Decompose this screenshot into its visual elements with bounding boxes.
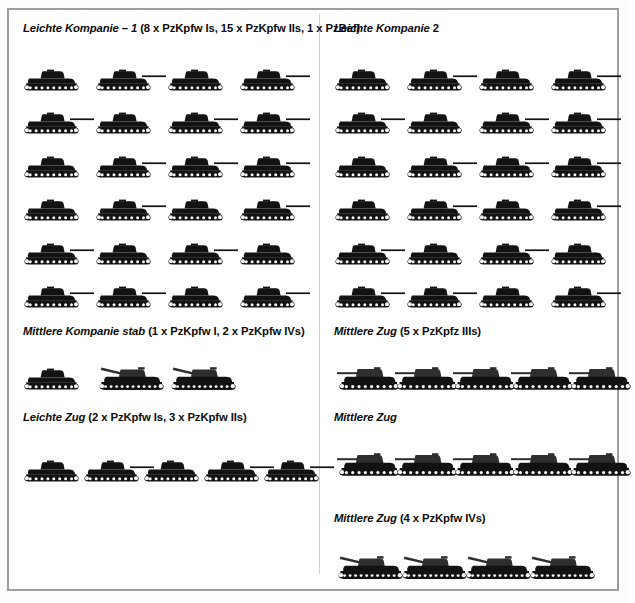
heavy-tank-icon (526, 553, 600, 582)
tank-cell (478, 137, 550, 181)
unit-title: Leichte Kompanie – 1 (8 x PzKpfw Is, 15 … (23, 22, 360, 34)
unit-title-roman: (5 x PzKpfz IIIs) (400, 325, 481, 337)
tank-grid (334, 353, 624, 393)
light-tank-icon (334, 197, 406, 224)
unit-title: Leichte Kompanie 2 (334, 22, 622, 34)
tank-cell (478, 94, 550, 138)
tank-cell (23, 181, 95, 225)
tank-row (334, 137, 622, 181)
light-tank-icon (23, 154, 95, 181)
light-tank-icon (406, 241, 478, 268)
tank-cell (406, 224, 478, 268)
tank-cell (167, 181, 239, 225)
light-tank-icon (23, 241, 95, 268)
tank-cell (478, 268, 550, 312)
light-tank-icon (334, 67, 406, 94)
light-tank-icon (167, 154, 239, 181)
tank-cell (550, 268, 622, 312)
light-tank-icon (239, 241, 311, 268)
heavy-tank-icon (462, 553, 536, 582)
light-tank-icon (263, 458, 335, 485)
light-tank-icon (239, 284, 311, 311)
light-tank-icon (23, 110, 95, 137)
tank-cell (167, 94, 239, 138)
tank-cell (23, 445, 83, 485)
light-tank-icon (334, 284, 406, 311)
tank-cell (550, 50, 622, 94)
tank-cell (550, 137, 622, 181)
unit-title-italic: Leichte Kompanie – 1 (23, 22, 137, 34)
light-tank-icon (23, 67, 95, 94)
tank-cell (508, 353, 566, 393)
tank-cell (334, 181, 406, 225)
heavy-tank-icon (167, 364, 241, 393)
light-tank-icon (550, 241, 622, 268)
tank-row (334, 439, 624, 479)
tank-cell (239, 50, 311, 94)
light-tank-icon (478, 241, 550, 268)
tank-cell (334, 94, 406, 138)
tank-cell (95, 94, 167, 138)
light-tank-icon (95, 67, 167, 94)
tank-row (23, 50, 360, 94)
light-tank-icon (239, 197, 311, 224)
heavy-tank-icon (398, 553, 472, 582)
tank-cell (334, 439, 392, 479)
tank-cell (406, 181, 478, 225)
unit-title: Mittlere Zug (334, 411, 624, 423)
tank-row (23, 137, 360, 181)
light-tank-icon (334, 154, 406, 181)
light-tank-icon (406, 154, 478, 181)
unit-title-roman: (1 x PzKpfw I, 2 x PzKpfw IVs) (148, 325, 304, 337)
light-tank-icon (550, 110, 622, 137)
tank-row (334, 353, 624, 393)
tank-grid (334, 50, 622, 311)
tank-row (23, 353, 305, 393)
light-tank-icon (406, 284, 478, 311)
tank-row (334, 224, 622, 268)
light-tank-icon (239, 110, 311, 137)
light-tank-icon (95, 241, 167, 268)
tank-cell (23, 224, 95, 268)
tank-row (334, 268, 622, 312)
tank-grid (334, 542, 590, 582)
tank-cell (450, 353, 508, 393)
tank-cell (566, 439, 624, 479)
tank-cell (334, 353, 392, 393)
light-tank-icon (95, 154, 167, 181)
unit-leichte-zug: Leichte Zug (2 x PzKpfw Is, 3 x PzKpfw I… (23, 411, 323, 485)
unit-title: Mittlere Zug (4 x PzKpfw IVs) (334, 512, 590, 524)
tank-cell (462, 542, 526, 582)
tank-cell (167, 50, 239, 94)
tank-cell (167, 224, 239, 268)
light-tank-icon (239, 154, 311, 181)
unit-title-italic: Leichte Kompanie (334, 22, 430, 34)
tank-cell (83, 445, 143, 485)
medium-tank-icon (566, 365, 635, 393)
tank-cell (526, 542, 590, 582)
tank-cell (95, 50, 167, 94)
tank-cell (392, 353, 450, 393)
light-tank-icon (334, 110, 406, 137)
light-tank-icon (406, 197, 478, 224)
unit-title-italic: Mittlere Zug (334, 325, 397, 337)
light-tank-icon (478, 67, 550, 94)
unit-title-roman: 2 (433, 22, 439, 34)
light-tank-icon (23, 197, 95, 224)
tank-cell (550, 181, 622, 225)
light-tank-icon (167, 197, 239, 224)
tank-cell (239, 181, 311, 225)
unit-mittlere-zug-iv: Mittlere Zug (4 x PzKpfw IVs) (334, 512, 590, 582)
unit-title-italic: Mittlere Zug (334, 411, 397, 423)
tank-row (334, 50, 622, 94)
tank-cell (566, 353, 624, 393)
tank-cell (23, 50, 95, 94)
unit-title-roman: (2 x PzKpfw Is, 3 x PzKpfw IIs) (88, 411, 246, 423)
light-tank-icon (95, 110, 167, 137)
light-tank-icon (167, 67, 239, 94)
tank-cell (239, 94, 311, 138)
tank-cell (23, 268, 95, 312)
tank-cell (95, 268, 167, 312)
light-tank-icon (478, 110, 550, 137)
tank-grid (23, 353, 305, 393)
